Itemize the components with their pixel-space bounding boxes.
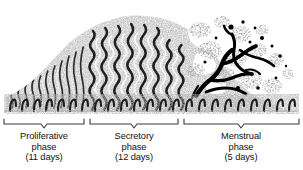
- endometrial-cycle-figure: Proliferative phase (11 days) Secretory …: [0, 0, 303, 170]
- endometrium-illustration: [0, 0, 303, 120]
- phase-label-line2: phase: [88, 142, 180, 153]
- bracket-menstrual: [184, 119, 299, 128]
- phase-label-proliferative: Proliferative phase (11 days): [2, 131, 86, 163]
- basal-layer: [4, 94, 299, 114]
- bracket-secretory: [90, 119, 178, 128]
- phase-duration: (12 days): [88, 152, 180, 163]
- phase-label-line1: Proliferative: [2, 131, 86, 142]
- phase-labels-group: Proliferative phase (11 days) Secretory …: [0, 118, 303, 170]
- phase-duration: (5 days): [182, 152, 300, 163]
- phase-duration: (11 days): [2, 152, 86, 163]
- phase-label-line1: Menstrual: [182, 131, 300, 142]
- phase-brackets: [0, 118, 303, 132]
- bracket-proliferative: [4, 119, 84, 128]
- phase-label-secretory: Secretory phase (12 days): [88, 131, 180, 163]
- phase-label-line1: Secretory: [88, 131, 180, 142]
- phase-label-line2: phase: [2, 142, 86, 153]
- phase-label-line2: phase: [182, 142, 300, 153]
- endometrium-svg: [0, 0, 303, 120]
- phase-label-menstrual: Menstrual phase (5 days): [182, 131, 300, 163]
